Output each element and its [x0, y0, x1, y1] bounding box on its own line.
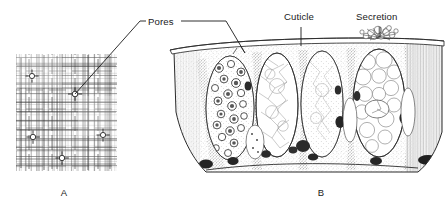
basal-nucleus	[227, 157, 238, 165]
cuticle-label: Cuticle	[284, 11, 314, 22]
cell-nucleus	[354, 91, 361, 101]
cell-nucleus	[245, 81, 252, 90]
panel-b-letter: B	[318, 187, 324, 198]
basal-nucleus	[370, 157, 382, 165]
panel-b: B	[168, 26, 447, 198]
basal-nucleus	[308, 153, 318, 160]
pores-label: Pores	[148, 16, 174, 27]
secretion-label: Secretion	[356, 11, 397, 22]
integument-figure: A	[0, 0, 447, 204]
panel-a-letter: A	[61, 187, 68, 198]
panel-a-cuticle-surface	[16, 54, 117, 171]
figure-container: A	[0, 0, 447, 204]
panel-b-tissue	[168, 40, 447, 176]
cell-nucleus	[289, 147, 298, 154]
cell-nucleus	[335, 85, 341, 94]
